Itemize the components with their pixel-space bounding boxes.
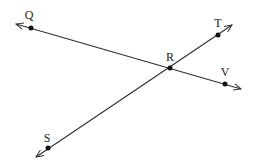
point-r [168, 66, 173, 71]
line-st [36, 25, 232, 157]
line-qv [16, 24, 241, 89]
geometry-diagram: Q R V T S [0, 0, 253, 167]
point-v [223, 82, 228, 87]
label-s: S [44, 131, 51, 145]
point-s [46, 146, 51, 151]
point-t [216, 33, 221, 38]
label-q: Q [25, 8, 34, 22]
label-t: T [214, 16, 222, 30]
label-v: V [221, 65, 230, 79]
point-q [29, 26, 34, 31]
label-r: R [166, 50, 174, 64]
